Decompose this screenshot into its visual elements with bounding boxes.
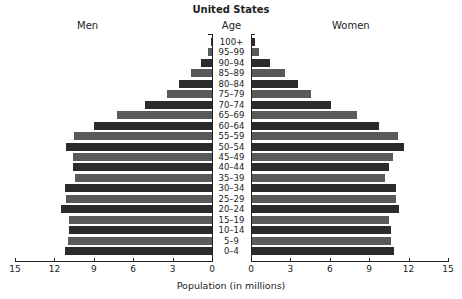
bar-women <box>252 38 255 46</box>
x-tick <box>15 258 16 262</box>
x-axis-left <box>15 261 212 262</box>
x-tick-label: 15 <box>438 264 458 274</box>
x-tick-label: 12 <box>399 264 419 274</box>
x-tick <box>94 258 95 262</box>
axis-cap <box>208 34 212 35</box>
bar-women <box>252 59 270 67</box>
bar-men <box>61 205 212 213</box>
age-label: 60–64 <box>212 121 251 131</box>
bar-women <box>252 195 396 203</box>
bar-women <box>252 226 391 234</box>
x-tick-label: 3 <box>163 264 183 274</box>
bar-men <box>179 80 212 88</box>
age-label: 20–24 <box>212 204 251 214</box>
age-label: 50–54 <box>212 142 251 152</box>
bar-men <box>65 184 212 192</box>
age-label: 35–39 <box>212 173 251 183</box>
age-label: 5–9 <box>212 236 251 246</box>
bar-women <box>252 163 389 171</box>
x-tick-label: 6 <box>320 264 340 274</box>
bar-men <box>69 216 212 224</box>
bar-women <box>252 205 399 213</box>
bar-men <box>201 59 212 67</box>
x-tick <box>369 258 370 262</box>
chart-title: United States <box>0 4 462 15</box>
x-tick-label: 6 <box>123 264 143 274</box>
bar-men <box>65 247 212 255</box>
bar-men <box>68 237 212 245</box>
women-label: Women <box>332 20 370 31</box>
bar-men <box>191 69 212 77</box>
bar-women <box>252 111 357 119</box>
left-axis-line <box>212 34 213 261</box>
bar-women <box>252 132 398 140</box>
x-tick <box>290 258 291 262</box>
age-label: 70–74 <box>212 100 251 110</box>
bar-women <box>252 184 396 192</box>
x-tick <box>251 258 252 262</box>
bar-men <box>145 101 212 109</box>
age-label: 80–84 <box>212 79 251 89</box>
bar-women <box>252 143 404 151</box>
x-tick <box>330 258 331 262</box>
age-label: 40–44 <box>212 162 251 172</box>
age-label: 90–94 <box>212 58 251 68</box>
bar-women <box>252 80 298 88</box>
x-tick-label: 0 <box>202 264 222 274</box>
x-tick-label: 9 <box>359 264 379 274</box>
bar-women <box>252 101 331 109</box>
x-tick-label: 3 <box>280 264 300 274</box>
age-label: 85–89 <box>212 68 251 78</box>
bar-women <box>252 174 385 182</box>
age-label: 95–99 <box>212 47 251 57</box>
axis-cap <box>251 34 255 35</box>
x-tick <box>173 258 174 262</box>
age-header: Age <box>212 20 251 31</box>
bar-men <box>94 122 212 130</box>
bar-men <box>69 226 212 234</box>
x-tick <box>409 258 410 262</box>
bar-men <box>66 195 212 203</box>
bar-women <box>252 237 391 245</box>
x-tick <box>448 258 449 262</box>
men-label: Men <box>77 20 98 31</box>
x-tick-label: 9 <box>84 264 104 274</box>
bar-women <box>252 48 259 56</box>
x-tick-label: 15 <box>5 264 25 274</box>
x-axis-right <box>251 261 448 262</box>
age-label: 30–34 <box>212 183 251 193</box>
x-tick <box>212 258 213 262</box>
bar-women <box>252 247 394 255</box>
bar-men <box>73 153 212 161</box>
age-label: 10–14 <box>212 225 251 235</box>
age-label: 15–19 <box>212 215 251 225</box>
bar-women <box>252 90 311 98</box>
age-label: 75–79 <box>212 89 251 99</box>
bar-women <box>252 69 285 77</box>
bar-men <box>66 143 212 151</box>
age-label: 55–59 <box>212 131 251 141</box>
bar-men <box>117 111 212 119</box>
bar-women <box>252 122 379 130</box>
age-label: 0–4 <box>212 246 251 256</box>
age-label: 45–49 <box>212 152 251 162</box>
age-label: 100+ <box>212 37 251 47</box>
age-label: 65–69 <box>212 110 251 120</box>
x-tick <box>133 258 134 262</box>
bar-men <box>74 132 212 140</box>
age-label: 25–29 <box>212 194 251 204</box>
bar-women <box>252 153 393 161</box>
x-axis-label: Population (in millions) <box>0 280 462 291</box>
bar-men <box>75 174 212 182</box>
bar-men <box>167 90 212 98</box>
bar-men <box>73 163 212 171</box>
x-tick-label: 12 <box>44 264 64 274</box>
x-tick-label: 0 <box>241 264 261 274</box>
bar-women <box>252 216 389 224</box>
x-tick <box>54 258 55 262</box>
right-axis-line <box>251 34 252 261</box>
